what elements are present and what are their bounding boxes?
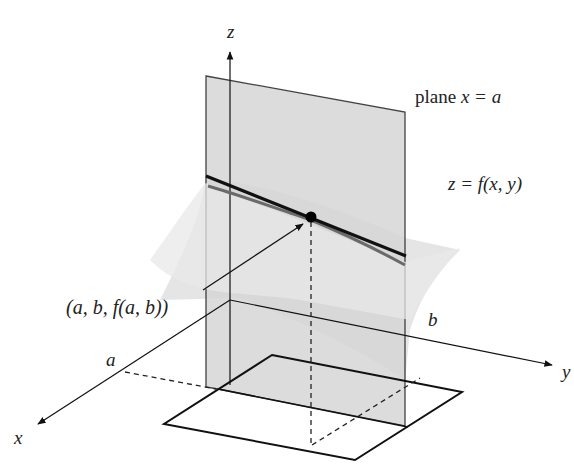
plane-label: plane x = a [415, 87, 501, 106]
z-axis-label: z [227, 22, 234, 41]
x-axis-label: x [14, 428, 22, 447]
surface-label: z = f(x, y) [448, 174, 522, 193]
x-axis [38, 300, 230, 424]
a-tick-label: a [106, 350, 116, 369]
diagram-svg [0, 0, 574, 475]
a-dashed-guide [125, 372, 216, 389]
y-axis-label: y [562, 362, 570, 381]
point-a-b-fab [306, 212, 317, 223]
plane-label-equation: x = a [461, 86, 501, 107]
point-label: (a, b, f(a, b)) [66, 297, 168, 317]
diagram-canvas: z y x plane x = a z = f(x, y) (a, b, f(a… [0, 0, 574, 475]
plane-label-prefix: plane [415, 86, 461, 107]
b-tick-label: b [428, 310, 438, 329]
